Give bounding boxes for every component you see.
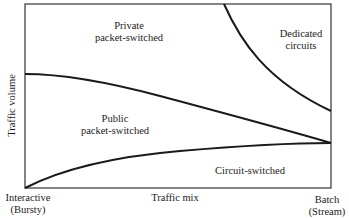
region-label-line: Private xyxy=(74,20,184,32)
tick-label-line: (Stream) xyxy=(302,206,349,218)
region-label-public-packet-switched: Public packet-switched xyxy=(60,113,170,137)
tick-label-line: Batch xyxy=(302,194,349,206)
tick-label-line: Interactive xyxy=(0,192,56,204)
x-axis-left-end-label: Interactive (Bursty) xyxy=(0,192,56,216)
x-axis-right-end-label: Batch (Stream) xyxy=(302,194,349,218)
region-label-line: Circuit-switched xyxy=(200,165,300,177)
dedicated-circuits-boundary-curve xyxy=(224,4,331,111)
x-axis-label: Traffic mix xyxy=(130,192,220,203)
region-label-line: Dedicated xyxy=(266,28,336,40)
region-label-line: circuits xyxy=(266,40,336,52)
y-axis-label: Traffic volume xyxy=(6,61,17,151)
region-label-circuit-switched: Circuit-switched xyxy=(200,165,300,177)
tick-label-line: (Bursty) xyxy=(0,204,56,216)
region-label-private-packet-switched: Private packet-switched xyxy=(74,20,184,44)
region-label-line: packet-switched xyxy=(60,125,170,137)
region-label-line: packet-switched xyxy=(74,32,184,44)
region-label-dedicated-circuits: Dedicated circuits xyxy=(266,28,336,52)
region-label-line: Public xyxy=(60,113,170,125)
